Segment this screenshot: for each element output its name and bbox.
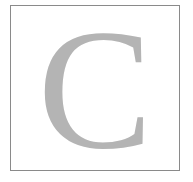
- letter-c: C: [11, 6, 179, 170]
- letter-frame: C: [10, 5, 180, 171]
